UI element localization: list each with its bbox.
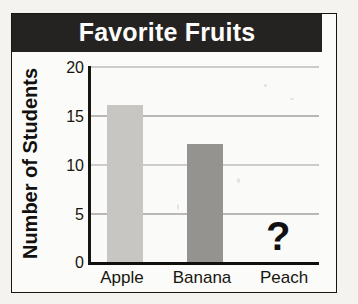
favorite-fruits-chart-figure: Favorite Fruits Number of Students 20 15… [0,0,358,304]
y-tick-0: 0 [54,254,84,272]
x-label-banana: Banana [173,268,232,288]
bar-banana [187,144,223,262]
scan-speckle [237,178,240,183]
y-axis-title: Number of Students [19,59,42,269]
x-axis-tick-labels: Apple Banana Peach [88,268,319,296]
bar-apple [107,105,143,262]
y-axis-tick-labels: 20 15 10 5 0 [52,0,84,304]
scan-speckle [177,204,179,210]
x-label-peach: Peach [260,268,308,288]
x-label-apple: Apple [100,268,143,288]
y-tick-10: 10 [54,157,84,175]
y-tick-20: 20 [54,59,84,77]
y-tick-5: 5 [54,206,84,224]
plot-inner: ? [91,66,319,262]
plot-area: ? [88,66,319,265]
gridline-20 [91,66,319,68]
y-tick-15: 15 [54,108,84,126]
scan-speckle [290,98,294,100]
unknown-value-marker: ? [266,216,290,256]
scan-speckle [264,84,267,87]
